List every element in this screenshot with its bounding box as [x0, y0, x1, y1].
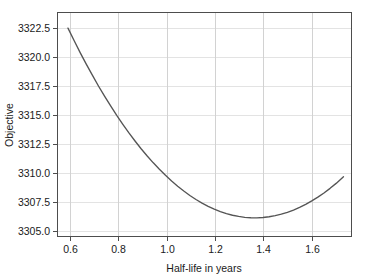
y-tick-labels: 3322.5 3320.0 3317.5 3315.0 3312.5 3310.… — [18, 22, 50, 237]
x-tick-label: 0.6 — [63, 243, 78, 255]
y-tick-label: 3315.0 — [18, 109, 50, 121]
y-tick-label: 3307.5 — [18, 196, 50, 208]
y-tick-marks — [53, 29, 57, 232]
y-tick-label: 3305.0 — [18, 225, 50, 237]
x-tick-label: 0.8 — [111, 243, 126, 255]
y-tick-label: 3322.5 — [18, 22, 50, 34]
y-tick-label: 3312.5 — [18, 138, 50, 150]
x-tick-label: 1.6 — [305, 243, 320, 255]
y-tick-label: 3320.0 — [18, 51, 50, 63]
x-axis-label: Half-life in years — [166, 262, 241, 274]
chart-canvas: 3322.5 3320.0 3317.5 3315.0 3312.5 3310.… — [0, 0, 367, 279]
x-tick-label: 1.2 — [208, 243, 223, 255]
x-tick-marks — [71, 237, 313, 241]
x-tick-labels: 0.6 0.8 1.0 1.2 1.4 1.6 — [63, 243, 320, 255]
y-axis-label: Objective — [3, 103, 15, 147]
y-tick-label: 3310.0 — [18, 167, 50, 179]
y-tick-label: 3317.5 — [18, 80, 50, 92]
chart-figure: 3322.5 3320.0 3317.5 3315.0 3312.5 3310.… — [0, 0, 367, 279]
x-tick-label: 1.4 — [256, 243, 271, 255]
x-tick-label: 1.0 — [160, 243, 175, 255]
